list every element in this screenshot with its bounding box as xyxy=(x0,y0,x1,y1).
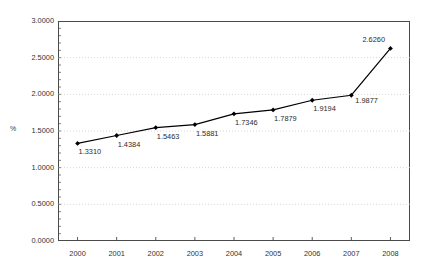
x-axis-tick-label: 2008 xyxy=(370,250,410,258)
x-axis-tick-label: 2004 xyxy=(214,250,254,258)
data-point-label: 1.5881 xyxy=(196,130,219,138)
x-axis-tick-label: 2005 xyxy=(253,250,293,258)
y-axis-tick-label: 2.5000 xyxy=(18,54,54,62)
data-point-label: 1.7346 xyxy=(235,119,258,127)
y-axis-tick-label: 0.5000 xyxy=(18,200,54,208)
x-axis-tick-label: 2002 xyxy=(136,250,176,258)
data-point-label: 1.5463 xyxy=(157,133,180,141)
gridlines xyxy=(58,58,410,205)
data-point-label: 1.7879 xyxy=(274,115,297,123)
y-axis-tick-label: 2.0000 xyxy=(18,90,54,98)
y-axis-tick-label: 3.0000 xyxy=(18,17,54,25)
data-point-label: 2.6260 xyxy=(362,36,385,44)
series-line xyxy=(78,48,391,143)
x-axis-tick-label: 2000 xyxy=(58,250,98,258)
y-axis-tick-label: 1.5000 xyxy=(18,127,54,135)
data-point-label: 1.3310 xyxy=(79,148,102,156)
x-axis-tick-label: 2001 xyxy=(97,250,137,258)
x-axis-ticks xyxy=(78,237,391,241)
y-axis-tick-label: 1.0000 xyxy=(18,164,54,172)
line-chart: % 0.00000.50001.00001.50002.00002.50003.… xyxy=(0,0,429,272)
plot-canvas xyxy=(58,21,410,241)
y-axis-title: % xyxy=(10,124,16,133)
x-axis-tick-label: 2006 xyxy=(292,250,332,258)
x-axis-tick-label: 2007 xyxy=(331,250,371,258)
data-point-label: 1.9194 xyxy=(313,105,336,113)
data-point-label: 1.4384 xyxy=(118,141,141,149)
data-point-label: 1.9877 xyxy=(355,97,378,105)
y-axis-ticks xyxy=(58,21,61,241)
x-axis-tick-label: 2003 xyxy=(175,250,215,258)
y-axis-tick-label: 0.0000 xyxy=(18,237,54,245)
